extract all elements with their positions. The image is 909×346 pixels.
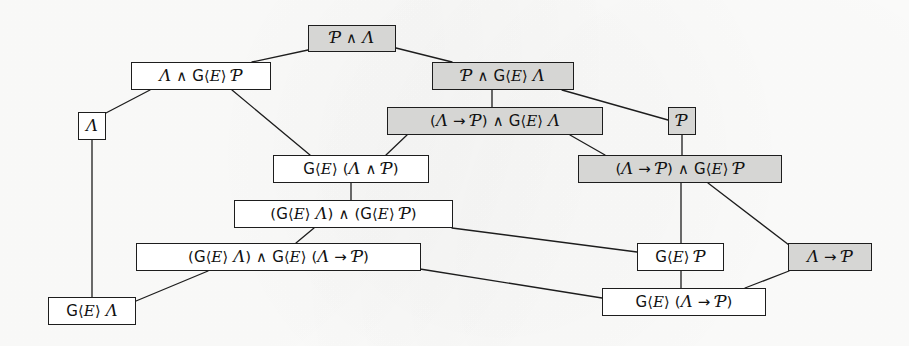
diagram-canvas: Ƥ ∧ ɅɅ ∧ G⟨E⟩ ƤƤ ∧ G⟨E⟩ ɅɅ(Ʌ → Ƥ) ∧ G⟨E⟩… — [0, 0, 909, 346]
lattice-edge — [396, 48, 452, 62]
lattice-node-n6[interactable]: Ƥ — [668, 107, 696, 135]
lattice-node-n12[interactable]: Ʌ → Ƥ — [788, 243, 872, 271]
lattice-node-label: Ʌ ∧ G⟨E⟩ Ƥ — [158, 67, 244, 84]
lattice-node-label: G⟨E⟩ (Ʌ → Ƥ) — [635, 293, 734, 310]
lattice-node-n5[interactable]: (Ʌ → Ƥ) ∧ G⟨E⟩ Ʌ — [387, 107, 603, 135]
lattice-node-label: G⟨E⟩ Ƥ — [654, 248, 706, 265]
lattice-node-label: (Ʌ → Ƥ) ∧ G⟨E⟩ Ƥ — [614, 160, 745, 177]
lattice-node-n1[interactable]: Ƥ ∧ Ʌ — [308, 25, 396, 52]
lattice-node-n9[interactable]: (G⟨E⟩ Ʌ) ∧ (G⟨E⟩ Ƥ) — [234, 200, 453, 228]
lattice-edge — [708, 183, 789, 245]
lattice-node-label: Ƥ ∧ Ʌ — [329, 30, 375, 47]
lattice-edge — [296, 228, 314, 243]
lattice-node-n7[interactable]: G⟨E⟩ (Ʌ ∧ Ƥ) — [273, 155, 429, 183]
lattice-edge — [104, 90, 150, 114]
lattice-node-label: Ʌ → Ƥ — [806, 248, 854, 265]
lattice-edge — [452, 228, 637, 252]
lattice-node-n10[interactable]: (G⟨E⟩ Ʌ) ∧ G⟨E⟩ (Ʌ → Ƥ) — [136, 243, 421, 271]
lattice-edge — [136, 271, 208, 301]
lattice-node-n8[interactable]: (Ʌ → Ƥ) ∧ G⟨E⟩ Ƥ — [578, 155, 782, 183]
lattice-node-label: G⟨E⟩ Ʌ — [65, 302, 118, 319]
lattice-node-n3[interactable]: Ƥ ∧ G⟨E⟩ Ʌ — [432, 62, 574, 90]
lattice-node-n2[interactable]: Ʌ ∧ G⟨E⟩ Ƥ — [131, 62, 271, 90]
lattice-node-label: G⟨E⟩ (Ʌ ∧ Ƥ) — [302, 160, 399, 177]
lattice-edge — [232, 90, 310, 155]
lattice-node-n11[interactable]: G⟨E⟩ Ƥ — [637, 243, 724, 271]
lattice-node-n13[interactable]: G⟨E⟩ Ʌ — [48, 297, 136, 325]
lattice-node-label: (Ʌ → Ƥ) ∧ G⟨E⟩ Ʌ — [429, 112, 561, 129]
lattice-node-label: (G⟨E⟩ Ʌ) ∧ G⟨E⟩ (Ʌ → Ƥ) — [187, 248, 370, 265]
lattice-node-n4[interactable]: Ʌ — [78, 112, 106, 140]
lattice-node-label: Ƥ ∧ G⟨E⟩ Ʌ — [460, 67, 546, 84]
lattice-node-label: Ʌ — [85, 117, 99, 134]
lattice-node-label: Ƥ — [675, 112, 688, 129]
lattice-edge — [252, 50, 308, 62]
lattice-edge — [386, 135, 407, 155]
lattice-edge — [745, 271, 789, 288]
lattice-node-label: (G⟨E⟩ Ʌ) ∧ (G⟨E⟩ Ƥ) — [269, 205, 417, 222]
lattice-edge — [570, 135, 605, 155]
lattice-edge — [420, 269, 602, 298]
lattice-node-n14[interactable]: G⟨E⟩ (Ʌ → Ƥ) — [602, 288, 766, 316]
